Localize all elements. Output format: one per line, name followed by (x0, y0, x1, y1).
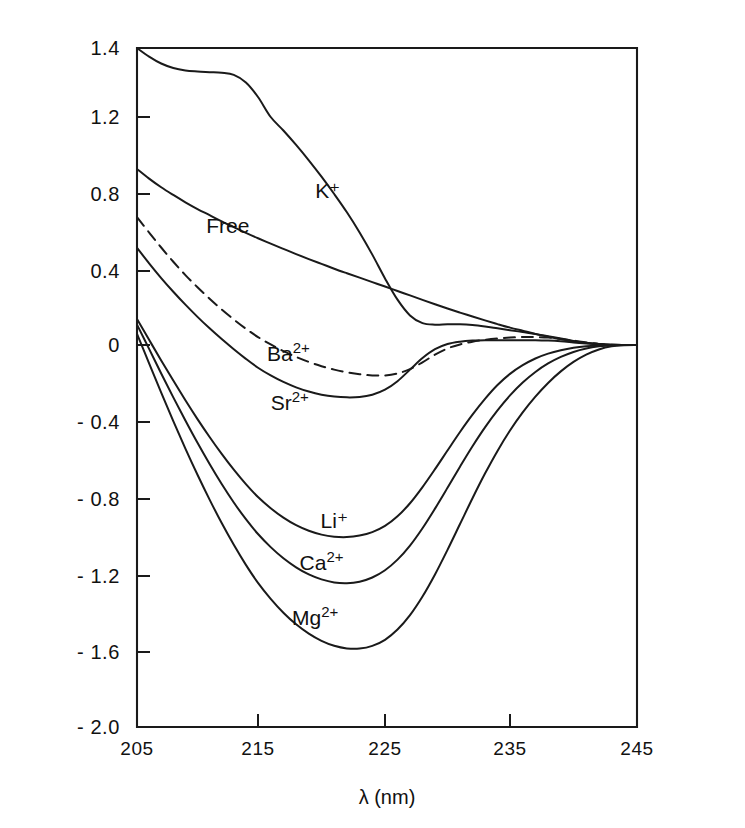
series-label-k-: K⁺ (315, 179, 340, 202)
y-tick-label-9: - 2.0 (77, 716, 120, 738)
curve-ba2- (137, 217, 637, 376)
y-tick-label-0: 1.4 (90, 37, 120, 59)
series-label-ca2-: Ca2+ (300, 548, 344, 574)
x-tick-label-2: 225 (368, 738, 402, 759)
x-axis-title: λ (nm) (359, 786, 416, 808)
y-tick-label-4: 0 (108, 334, 120, 356)
curve-free (137, 169, 637, 345)
x-tick-label-4: 245 (620, 738, 654, 759)
chart-canvas: 205215225235245 1.41.20.80.40- 0.4- 0.8-… (0, 0, 745, 828)
y-tick-label-6: - 0.8 (77, 488, 120, 510)
y-tick-label-5: - 0.4 (77, 411, 120, 433)
y-tick-label-2: 0.8 (90, 183, 120, 205)
series-label-sr2-: Sr2+ (271, 388, 309, 414)
y-tick-label-7: - 1.2 (77, 565, 120, 587)
series-label-free: Free (206, 214, 249, 237)
series-label-li-: Li⁺ (321, 509, 348, 532)
x-tick-labels: 205215225235245 (120, 738, 654, 759)
axis-titles: λ (nm) (359, 786, 416, 808)
cd-spectrum-figure: 205215225235245 1.41.20.80.40- 0.4- 0.8-… (0, 0, 745, 828)
x-tick-label-3: 235 (493, 738, 527, 759)
series-label-ba2-: Ba2+ (267, 339, 310, 365)
curve-mg2- (137, 334, 637, 649)
series-label-mg2-: Mg2+ (292, 603, 339, 629)
y-tick-label-8: - 1.6 (77, 641, 120, 663)
chart-curves (137, 48, 637, 649)
y-tick-labels: 1.41.20.80.40- 0.4- 0.8- 1.2- 1.6- 2.0 (77, 37, 120, 738)
y-tick-label-1: 1.2 (90, 106, 120, 128)
x-tick-label-0: 205 (120, 738, 154, 759)
curve-ca2- (137, 325, 637, 584)
x-tick-label-1: 215 (241, 738, 275, 759)
y-tick-label-3: 0.4 (90, 260, 120, 282)
